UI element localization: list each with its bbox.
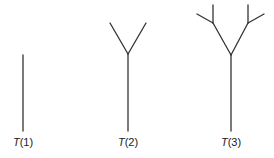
label-t2-var: T <box>118 136 125 148</box>
label-t3-arg: (3) <box>228 136 241 148</box>
tree-t3 <box>197 5 264 131</box>
tree-drawings <box>0 0 274 158</box>
label-t1-var: T <box>13 136 20 148</box>
label-t1-arg: (1) <box>20 136 33 148</box>
label-t3-var: T <box>221 136 228 148</box>
tree-t2 <box>110 23 146 131</box>
label-t1: T(1) <box>13 136 33 148</box>
tree-diagram: T(1) T(2) T(3) <box>0 0 274 158</box>
label-t2: T(2) <box>118 136 138 148</box>
label-t2-arg: (2) <box>125 136 138 148</box>
label-t3: T(3) <box>221 136 241 148</box>
